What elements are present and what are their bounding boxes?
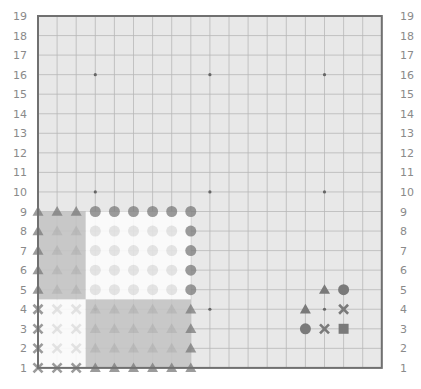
circle-marker-icon: [166, 206, 177, 217]
circle-marker-icon: [185, 245, 196, 256]
row-label: 10: [13, 186, 27, 199]
circle-marker-icon: [128, 206, 139, 217]
row-labels-right: 19181716151413121110987654321: [400, 10, 414, 375]
circle-marker-icon: [185, 206, 196, 217]
circle-marker-icon: [90, 226, 101, 237]
circle-marker-icon: [109, 284, 120, 295]
circle-marker-icon: [90, 284, 101, 295]
row-label: 8: [20, 225, 27, 238]
row-label: 13: [13, 127, 27, 140]
row-label: 15: [400, 88, 414, 101]
row-label: 18: [13, 30, 27, 43]
circle-marker-icon: [109, 226, 120, 237]
circle-marker-icon: [147, 245, 158, 256]
go-board[interactable]: 19181716151413121110987654321 1918171615…: [0, 0, 421, 389]
row-label: 1: [400, 362, 407, 375]
row-label: 14: [13, 108, 27, 121]
circle-marker-icon: [90, 265, 101, 276]
row-label: 17: [400, 49, 414, 62]
circle-marker-icon: [147, 206, 158, 217]
star-point-icon: [323, 308, 326, 311]
circle-marker-icon: [166, 245, 177, 256]
overlay-markers: [33, 206, 197, 372]
row-label: 3: [400, 323, 407, 336]
row-label: 4: [400, 303, 407, 316]
circle-marker-icon: [166, 284, 177, 295]
circle-marker-icon: [147, 226, 158, 237]
star-point-icon: [208, 190, 211, 193]
row-label: 7: [400, 245, 407, 258]
region-overlay: [33, 206, 197, 372]
row-label: 11: [400, 166, 414, 179]
row-label: 3: [20, 323, 27, 336]
row-label: 9: [20, 206, 27, 219]
square-marker-icon: [339, 324, 349, 334]
circle-marker-icon: [185, 226, 196, 237]
circle-marker-icon: [166, 265, 177, 276]
circle-marker-icon: [109, 206, 120, 217]
row-labels-left: 19181716151413121110987654321: [13, 10, 27, 375]
circle-marker-icon: [166, 226, 177, 237]
row-label: 12: [13, 147, 27, 160]
row-label: 2: [20, 342, 27, 355]
row-label: 14: [400, 108, 414, 121]
row-label: 8: [400, 225, 407, 238]
circle-marker-icon: [128, 284, 139, 295]
circle-marker-icon: [147, 265, 158, 276]
overlay-region-top-left: [38, 212, 86, 300]
go-board-view: 19181716151413121110987654321 1918171615…: [0, 0, 421, 389]
circle-marker-icon: [109, 245, 120, 256]
circle-marker-icon: [185, 265, 196, 276]
row-label: 15: [13, 88, 27, 101]
circle-marker-icon: [300, 323, 311, 334]
row-label: 9: [400, 206, 407, 219]
row-label: 19: [13, 10, 27, 23]
star-point-icon: [323, 73, 326, 76]
row-label: 16: [400, 69, 414, 82]
row-label: 6: [400, 264, 407, 277]
circle-marker-icon: [90, 245, 101, 256]
star-point-icon: [94, 190, 97, 193]
circle-marker-icon: [128, 226, 139, 237]
row-label: 16: [13, 69, 27, 82]
row-label: 19: [400, 10, 414, 23]
row-label: 4: [20, 303, 27, 316]
circle-marker-icon: [128, 265, 139, 276]
row-label: 6: [20, 264, 27, 277]
row-label: 11: [13, 166, 27, 179]
row-label: 10: [400, 186, 414, 199]
star-point-icon: [208, 308, 211, 311]
row-label: 12: [400, 147, 414, 160]
star-point-icon: [323, 190, 326, 193]
circle-marker-icon: [338, 284, 349, 295]
circle-marker-icon: [109, 265, 120, 276]
row-label: 5: [20, 284, 27, 297]
star-point-icon: [94, 73, 97, 76]
row-label: 5: [400, 284, 407, 297]
circle-marker-icon: [185, 284, 196, 295]
row-label: 2: [400, 342, 407, 355]
row-label: 13: [400, 127, 414, 140]
circle-marker-icon: [90, 206, 101, 217]
row-label: 1: [20, 362, 27, 375]
row-label: 18: [400, 30, 414, 43]
circle-marker-icon: [128, 245, 139, 256]
circle-marker-icon: [147, 284, 158, 295]
overlay-region-bottom-left: [38, 299, 86, 367]
row-label: 17: [13, 49, 27, 62]
star-point-icon: [208, 73, 211, 76]
row-label: 7: [20, 245, 27, 258]
